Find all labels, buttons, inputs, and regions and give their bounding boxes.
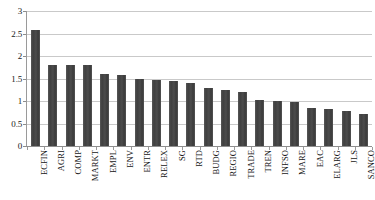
- bar: [31, 30, 40, 146]
- bar: [83, 65, 92, 146]
- x-tick-label: SG: [178, 150, 187, 200]
- y-tick-label: 2.5: [0, 29, 22, 38]
- bar: [186, 83, 195, 146]
- x-tick-label: COMP: [74, 150, 83, 200]
- bar: [204, 88, 213, 146]
- bar: [48, 65, 57, 146]
- bar: [307, 108, 316, 146]
- bars-layer: [27, 11, 372, 146]
- x-tick-label: ENV: [126, 150, 135, 200]
- y-tick-label: 0: [0, 142, 22, 151]
- bar: [255, 100, 264, 146]
- bar: [238, 92, 247, 146]
- x-tick-label: JLS: [350, 150, 359, 200]
- x-tick-label: ENTR: [143, 150, 152, 200]
- bar: [342, 111, 351, 146]
- x-tick-label: ELARG: [333, 150, 342, 200]
- bar: [324, 109, 333, 146]
- y-tick-label: 2: [0, 52, 22, 61]
- x-tick-label: INFSO: [281, 150, 290, 200]
- y-tick-label: 1: [0, 97, 22, 106]
- bar: [290, 102, 299, 146]
- bar: [117, 75, 126, 146]
- x-tick-label: BUDG: [212, 150, 221, 200]
- x-tick-label: MARKT: [91, 150, 100, 200]
- x-axis-labels: ECFINAGRICOMPMARKTEMPLENVENTRRELEXSGRTDB…: [27, 150, 372, 200]
- bar: [169, 81, 178, 146]
- bar: [100, 74, 109, 146]
- x-tick-label: AGRI: [57, 150, 66, 200]
- x-tick-label: EMPL: [109, 150, 118, 200]
- x-tick-label: ECFIN: [40, 150, 49, 200]
- bar-chart: 32.521.510.50 ECFINAGRICOMPMARKTEMPLENVE…: [0, 0, 375, 200]
- y-axis: 32.521.510.50: [0, 6, 22, 152]
- x-tick-label: MARE: [298, 150, 307, 200]
- y-tick-label: 3: [0, 7, 22, 16]
- x-tick-label: EAC: [316, 150, 325, 200]
- x-tick-label: RELEX: [160, 150, 169, 200]
- bar: [359, 114, 368, 146]
- y-tick-label: 0.5: [0, 119, 22, 128]
- bar: [152, 80, 161, 146]
- y-tick-label: 1.5: [0, 74, 22, 83]
- bar: [221, 90, 230, 146]
- x-tick-label: RTD: [195, 150, 204, 200]
- x-tick-label: SANCO: [367, 150, 375, 200]
- bar: [273, 101, 282, 146]
- x-tick-label: TREN: [264, 150, 273, 200]
- x-tick-label: REGIO: [229, 150, 238, 200]
- bar: [66, 65, 75, 146]
- x-tick-label: TRADE: [247, 150, 256, 200]
- bar: [135, 79, 144, 147]
